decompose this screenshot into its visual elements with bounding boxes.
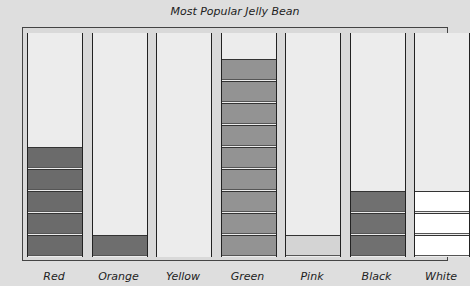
jelly-bean-block xyxy=(28,191,82,212)
jelly-bean-block xyxy=(28,147,82,168)
category-label: Green xyxy=(218,270,278,283)
jelly-bean-block xyxy=(351,213,405,234)
chart-title: Most Popular Jelly Bean xyxy=(0,5,470,18)
jelly-bean-block xyxy=(222,235,276,256)
category-label: Red xyxy=(24,270,84,283)
column-yellow xyxy=(156,33,212,257)
column-black xyxy=(350,33,406,257)
column-orange xyxy=(92,33,148,257)
jelly-bean-block xyxy=(351,235,405,256)
jelly-bean-block xyxy=(415,235,469,256)
jelly-bean-block xyxy=(222,169,276,190)
category-label: Pink xyxy=(282,270,342,283)
jelly-bean-block xyxy=(286,235,340,256)
category-label: White xyxy=(411,270,470,283)
jelly-bean-block xyxy=(222,81,276,102)
jelly-bean-block xyxy=(222,103,276,124)
jelly-bean-block xyxy=(222,213,276,234)
category-label: Orange xyxy=(89,270,149,283)
jelly-bean-block xyxy=(93,235,147,256)
category-label: Yellow xyxy=(153,270,213,283)
column-white xyxy=(414,33,470,257)
jelly-bean-block xyxy=(222,191,276,212)
jelly-bean-block xyxy=(222,147,276,168)
jelly-bean-block xyxy=(415,213,469,234)
column-green xyxy=(221,33,277,257)
jelly-bean-block xyxy=(415,191,469,212)
column-pink xyxy=(285,33,341,257)
jelly-bean-block xyxy=(222,59,276,80)
jelly-bean-block xyxy=(28,169,82,190)
jelly-bean-block xyxy=(28,213,82,234)
jelly-bean-block xyxy=(222,125,276,146)
category-label: Black xyxy=(347,270,407,283)
jelly-bean-block xyxy=(351,191,405,212)
column-red xyxy=(27,33,83,257)
jelly-bean-block xyxy=(28,235,82,256)
chart-frame xyxy=(22,27,448,261)
